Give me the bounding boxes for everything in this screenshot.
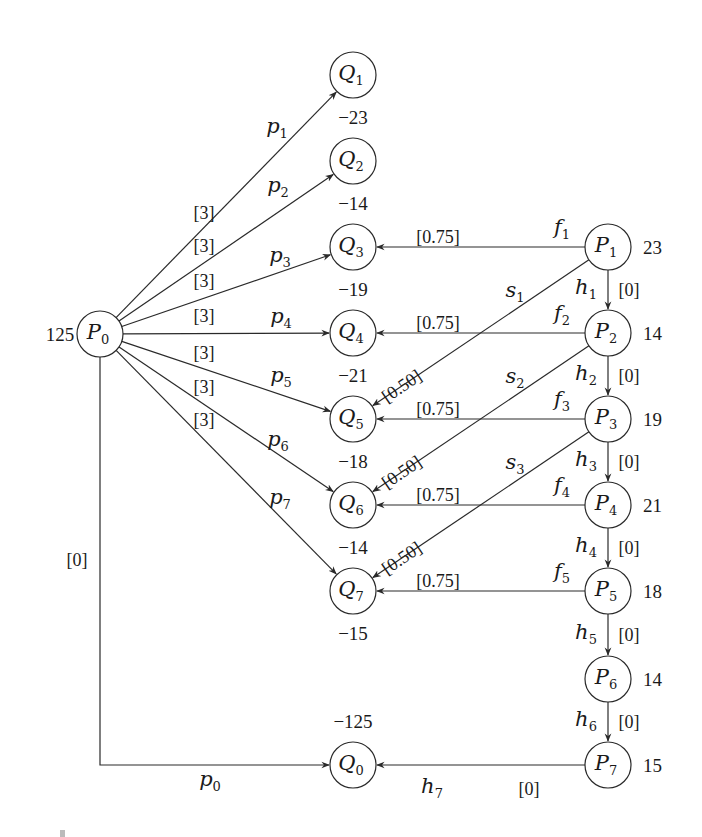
node-P2: P2: [585, 310, 631, 356]
edge-label-p5: p5: [270, 363, 292, 390]
flow-network-diagram: p1[3]p2[3]p3[3]p4[3]p5[3]p6[3]p7[3]p0[0]…: [0, 0, 702, 837]
edge-label-f2: f2: [552, 301, 570, 328]
supply-P1: 23: [643, 237, 662, 258]
demand-Q2: −14: [338, 193, 368, 214]
edge-label-h7: h7: [421, 774, 443, 801]
edge-cost-h5: [0]: [619, 625, 640, 645]
node-Q1: Q1: [330, 52, 376, 98]
edge-label-h2: h2: [575, 361, 597, 388]
edge-label-s1: s1: [505, 278, 524, 305]
edge-P0-Q0: [100, 357, 329, 765]
supply-P3: 19: [643, 409, 662, 430]
edge-P0-Q1: [116, 92, 336, 317]
node-P6: P6: [585, 656, 631, 702]
edge-cost-p1: [3]: [194, 203, 215, 223]
supply-P5: 18: [643, 581, 662, 602]
edge-P0-Q2: [119, 175, 333, 321]
edge-label-s3: s3: [505, 450, 524, 477]
demand-Q3: −19: [338, 279, 368, 300]
edge-cost-p3: [3]: [194, 271, 215, 291]
edge-label-p4: p4: [270, 304, 292, 331]
edge-label-h6: h6: [575, 707, 597, 734]
edge-label-f3: f3: [552, 387, 570, 414]
edge-cost-f1: [0.75]: [416, 227, 460, 247]
edge-P0-Q3: [122, 255, 331, 327]
edge-cost-f4: [0.75]: [416, 485, 460, 505]
edge-P0-Q6: [119, 347, 333, 492]
edge-label-h1: h1: [575, 275, 597, 302]
demand-Q5: −18: [338, 451, 368, 472]
demand-Q7: −15: [338, 623, 368, 644]
edge-cost-h2: [0]: [619, 366, 640, 386]
supply-P2: 14: [643, 323, 663, 344]
edge-label-p2: p2: [267, 173, 289, 200]
edge-cost-h7: [0]: [519, 779, 540, 799]
demand-Q1: −23: [338, 107, 368, 128]
edge-label-h5: h5: [575, 620, 597, 647]
edge-label-p0: p0: [199, 767, 221, 794]
edge-cost-p6: [3]: [194, 377, 215, 397]
edge-cost-h1: [0]: [619, 280, 640, 300]
edge-label-h4: h4: [575, 533, 597, 560]
edge-cost-p2: [3]: [194, 236, 215, 256]
supply-P7: 15: [643, 755, 662, 776]
edge-label-f4: f4: [552, 473, 570, 500]
demand-Q6: −14: [338, 537, 368, 558]
edge-label-p6: p6: [267, 427, 289, 454]
edge-label-f5: f5: [552, 559, 570, 586]
supply-P0: 125: [46, 324, 75, 345]
node-P7: P7: [585, 742, 631, 788]
edge-cost-p7: [3]: [194, 410, 215, 430]
edge-cost-h6: [0]: [619, 712, 640, 732]
edge-cost-p4: [3]: [194, 306, 215, 326]
supply-P4: 21: [643, 495, 662, 516]
node-P5: P5: [585, 568, 631, 614]
node-P1: P1: [585, 224, 631, 270]
node-P3: P3: [585, 396, 631, 442]
edge-cost-f5: [0.75]: [416, 571, 460, 591]
nodes-layer: P0125Q0−125Q1−23Q2−14Q3−19Q4−21Q5−18Q6−1…: [46, 52, 663, 788]
edge-P0-Q7: [116, 350, 336, 574]
demand-Q0: −125: [333, 711, 372, 732]
edge-cost-h3: [0]: [619, 452, 640, 472]
edge-cost-p5: [3]: [194, 343, 215, 363]
edge-label-p1: p1: [266, 114, 288, 141]
supply-P6: 14: [643, 669, 663, 690]
node-Q7: Q7: [330, 568, 376, 614]
edge-label-p3: p3: [269, 243, 291, 270]
caption-partial: [60, 830, 65, 837]
demand-Q4: −21: [338, 365, 368, 386]
edge-P0-Q4: [123, 333, 329, 334]
node-Q3: Q3: [330, 224, 376, 270]
edge-label-h3: h3: [575, 447, 597, 474]
node-Q2: Q2: [330, 138, 376, 184]
edge-P0-Q5: [122, 341, 330, 411]
node-Q6: Q6: [330, 482, 376, 528]
edge-cost-h4: [0]: [619, 538, 640, 558]
edge-label-p7: p7: [269, 485, 291, 512]
edge-label-f1: f1: [552, 215, 570, 242]
node-Q0: Q0: [330, 742, 376, 788]
edge-label-s2: s2: [505, 364, 524, 391]
node-P0: P0: [77, 311, 123, 357]
node-Q4: Q4: [330, 310, 376, 356]
edge-cost-p0: [0]: [67, 550, 88, 570]
edge-cost-f3: [0.75]: [416, 399, 460, 419]
node-P4: P4: [585, 482, 631, 528]
node-Q5: Q5: [330, 396, 376, 442]
edge-cost-f2: [0.75]: [416, 313, 460, 333]
